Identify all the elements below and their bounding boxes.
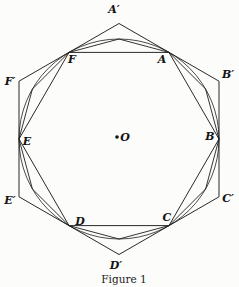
center-point-label: O xyxy=(120,131,130,144)
circumscribed-hexagon xyxy=(19,24,219,255)
figure-caption: Figure 1 xyxy=(101,273,146,285)
vertex-label-B-prime: B′ xyxy=(221,68,234,81)
vertex-label-A: A xyxy=(157,53,167,66)
vertex-label-F: F xyxy=(67,53,77,66)
vertex-label-B: B xyxy=(204,130,214,143)
inscribed-dodecagon xyxy=(19,39,219,239)
figure-1-diagram: O A B C D E F A′ B′ C′ D′ E′ F′ Figure 1 xyxy=(0,0,239,287)
vertex-label-C-prime: C′ xyxy=(222,192,234,205)
center-dot xyxy=(115,135,119,139)
inscribed-hexagon xyxy=(19,52,219,225)
geometry-canvas: O A B C D E F A′ B′ C′ D′ E′ F′ Figure 1 xyxy=(0,0,239,287)
vertex-label-A-prime: A′ xyxy=(107,3,120,16)
vertex-label-F-prime: F′ xyxy=(4,75,16,88)
vertex-label-C: C xyxy=(163,211,172,224)
vertex-label-D-prime: D′ xyxy=(109,259,123,272)
circle-outline xyxy=(19,39,219,239)
vertex-label-D: D xyxy=(74,215,85,228)
vertex-label-E: E xyxy=(22,135,32,148)
vertex-label-E-prime: E′ xyxy=(3,194,15,207)
